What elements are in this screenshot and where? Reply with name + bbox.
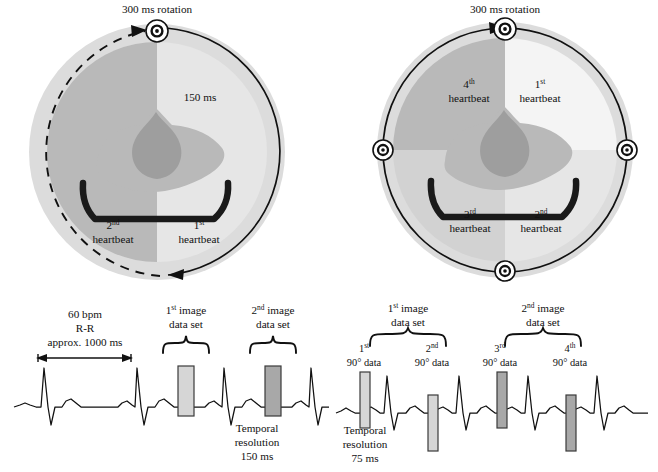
ecg-left-bracket-1: 1st image data set (163, 303, 209, 353)
svg-text:4th: 4th (565, 341, 576, 354)
svg-text:heartbeat: heartbeat (450, 222, 492, 234)
svg-text:heartbeat: heartbeat (93, 233, 135, 245)
svg-text:90° data: 90° data (483, 357, 518, 368)
ecg-left-acquisition-bar-2 (265, 366, 281, 416)
svg-text:data set: data set (526, 316, 561, 328)
right-rotation-label: 300 ms rotation (470, 3, 541, 15)
ecg-left-temporal-line2: resolution (235, 436, 280, 448)
svg-text:heartbeat: heartbeat (179, 233, 221, 245)
ecg-left-acquisition-bar-1 (178, 366, 194, 416)
svg-text:90° data: 90° data (415, 357, 450, 368)
svg-text:heartbeat: heartbeat (520, 92, 562, 104)
ecg-left-rr-arrow (36, 354, 133, 362)
svg-text:3rd: 3rd (494, 341, 506, 354)
ecg-right-segment-4-caption: 4th 90° data (553, 341, 588, 368)
ecg-right-bracket-2: 2nd image data set (505, 301, 581, 346)
ecg-right-temporal-value: 75 ms (351, 452, 378, 464)
ecg-left-temporal-value: 150 ms (241, 450, 274, 462)
svg-text:data set: data set (391, 316, 426, 328)
panel-right: 300 ms rotation 4th heartbeat 1st heartb… (373, 3, 637, 281)
cardiac-ct-figure: 300 ms rotation 150 ms 2nd heartbeat 1st (0, 0, 658, 472)
ecg-right-segment-2-caption: 2nd 90° data (415, 341, 450, 368)
svg-text:90° data: 90° data (347, 357, 382, 368)
ecg-left-temporal-line1: Temporal (236, 422, 279, 434)
ecg-right-segment-3-caption: 3rd 90° data (483, 341, 518, 368)
ecg-left-rr-line1: 60 bpm (68, 308, 102, 320)
svg-text:heartbeat: heartbeat (449, 92, 491, 104)
svg-text:data set: data set (169, 318, 204, 330)
svg-text:heartbeat: heartbeat (521, 222, 563, 234)
svg-text:1st image: 1st image (388, 301, 429, 314)
svg-text:2nd image: 2nd image (251, 303, 294, 316)
left-detector-marker (146, 20, 168, 42)
svg-text:2nd image: 2nd image (521, 301, 564, 314)
ecg-right-acquisition-bar-2 (428, 395, 438, 451)
ecg-right-acquisition-bar-3 (497, 372, 507, 428)
ecg-left-waveform (14, 368, 329, 425)
svg-text:1st image: 1st image (166, 303, 207, 316)
svg-text:2nd: 2nd (426, 341, 439, 354)
ecg-left: 60 bpm R-R approx. 1000 ms 1st image dat… (14, 303, 329, 462)
ecg-right-acquisition-bar-1 (360, 372, 370, 428)
ecg-right-temporal-line2: resolution (343, 438, 388, 450)
right-detector-marker-right (617, 140, 637, 160)
svg-text:1st: 1st (359, 341, 370, 354)
figure-canvas: 300 ms rotation 150 ms 2nd heartbeat 1st (0, 0, 658, 472)
ecg-left-rr-line2: R-R (76, 322, 95, 334)
left-rotation-label: 300 ms rotation (122, 3, 193, 15)
svg-text:data set: data set (256, 318, 291, 330)
right-detector-marker-bottom (495, 261, 515, 281)
ecg-right-temporal-line1: Temporal (344, 424, 387, 436)
right-detector-marker-left (373, 140, 393, 160)
ecg-right-bracket-1: 1st image data set (370, 301, 446, 346)
left-segment-duration-label: 150 ms (184, 91, 217, 103)
ecg-right: 1st image data set 2nd image data set 1s… (336, 301, 648, 464)
panel-left: 300 ms rotation 150 ms 2nd heartbeat 1st (29, 3, 285, 280)
ecg-right-waveform (336, 376, 648, 430)
ecg-left-rr-line3: approx. 1000 ms (48, 336, 123, 348)
ecg-left-bracket-2: 2nd image data set (250, 303, 296, 353)
ecg-right-acquisition-bar-4 (566, 395, 576, 451)
ecg-right-segment-1-caption: 1st 90° data (347, 341, 382, 368)
right-detector-marker-top (494, 18, 516, 40)
svg-text:90° data: 90° data (553, 357, 588, 368)
